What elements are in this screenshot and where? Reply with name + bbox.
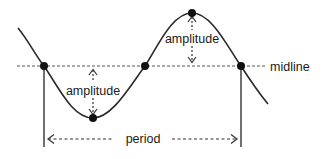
period-label: period (126, 132, 161, 146)
point-midline-crossing-2 (141, 62, 149, 70)
point-midline-crossing-3 (237, 62, 245, 70)
amplitude-upper-label: amplitude (165, 32, 219, 46)
point-trough (89, 114, 97, 122)
point-midline-crossing-1 (40, 62, 48, 70)
amplitude-lower-label: amplitude (66, 84, 120, 98)
point-peak (188, 9, 196, 17)
sinusoid-diagram: amplitude amplitude midline period (0, 0, 323, 159)
midline-label: midline (270, 60, 310, 74)
